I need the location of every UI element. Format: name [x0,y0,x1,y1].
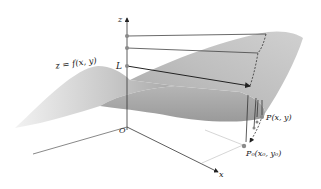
z-point-L [125,64,129,68]
limit-label: L [115,61,122,71]
projection-line-2 [202,145,243,163]
y-axis [33,127,127,154]
guide-line-top [127,34,266,36]
z-point-top [125,34,129,38]
origin-label: O [119,126,126,135]
point-P0-label: P₀(x₀, y₀) [245,149,281,158]
point-P0 [242,144,246,148]
point-P-label: P(x, y) [265,113,292,122]
projection-line-1 [205,130,243,145]
x-axis-label: x [219,170,224,179]
z-axis-label: z [117,15,123,24]
z-point-mid [125,46,129,50]
ground-point-b [256,121,259,124]
ground-point-a [253,127,256,130]
x-axis [127,127,218,172]
limit-diagram: z x O L z = f(x, y) P(x, y) P₀(x₀, y₀) [0,0,321,189]
point-P [260,115,264,119]
